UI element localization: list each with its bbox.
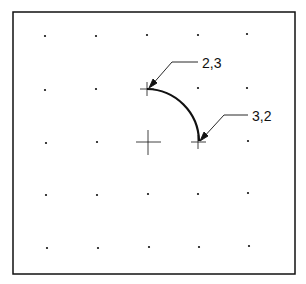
callout-label-start: 2,3	[202, 55, 221, 71]
drawing-frame	[13, 12, 295, 274]
callout-label-end: 3,2	[252, 108, 271, 124]
arc	[147, 89, 199, 141]
drawing-canvas	[0, 0, 306, 284]
point-markers	[140, 82, 206, 149]
center-mark	[136, 130, 161, 155]
